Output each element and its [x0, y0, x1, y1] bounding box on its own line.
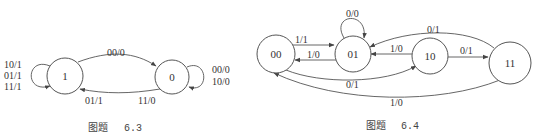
state-00-label: 00 — [271, 48, 283, 60]
state-diagram-6-3: 1 0 10/1 01/1 11/1 00/0 01/1 11/0 00/0 1… — [4, 47, 230, 134]
state-11-label: 11 — [505, 57, 516, 69]
self-1-label-c: 11/1 — [4, 81, 21, 92]
caption-prefix-6-3: 图题 — [88, 122, 108, 133]
self-0-label-b: 10/0 — [212, 76, 230, 87]
state-diagram-6-4: 00 01 10 11 0/0 1/1 1/0 1/0 0/1 0/1 0/1 … — [257, 8, 531, 132]
edge-1-to-0-label: 00/0 — [107, 47, 125, 58]
edge-11-to-00-label: 1/0 — [390, 97, 403, 108]
caption-number-6-3: 6.3 — [124, 123, 142, 134]
state-1-label: 1 — [62, 70, 68, 82]
edge-00-to-10-label: 0/1 — [346, 79, 359, 90]
edge-0-to-1-label-b: 11/0 — [138, 95, 155, 106]
edge-11-to-01-label: 0/1 — [427, 24, 440, 35]
self-1-label-a: 10/1 — [4, 59, 22, 70]
self-01-label: 0/0 — [346, 8, 359, 19]
state-01-label: 01 — [348, 48, 359, 60]
edge-0-to-1 — [80, 89, 160, 93]
self-loop-01 — [341, 18, 364, 38]
edge-01-to-00-label: 1/0 — [307, 49, 320, 60]
state-0-label: 0 — [169, 71, 175, 83]
edge-10-to-11-label: 0/1 — [460, 45, 473, 56]
caption-prefix-6-4: 图题 — [366, 120, 386, 131]
self-loop-0 — [187, 66, 204, 88]
edge-10-to-01-label: 1/0 — [390, 43, 403, 54]
self-0-label-a: 00/0 — [212, 64, 230, 75]
edge-0-to-1-label-a: 01/1 — [85, 95, 103, 106]
state-10-label: 10 — [425, 50, 437, 62]
self-1-label-b: 01/1 — [4, 70, 22, 81]
edge-00-to-01-label: 1/1 — [295, 34, 308, 45]
caption-number-6-4: 6.4 — [401, 121, 419, 132]
